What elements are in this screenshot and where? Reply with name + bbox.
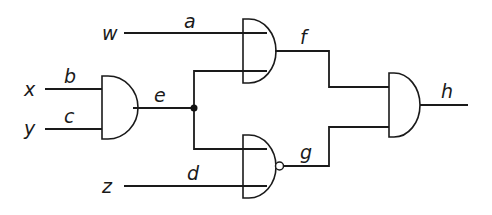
label-input-x: x: [23, 78, 36, 100]
junction-dot: [191, 105, 198, 112]
label-wire-a: a: [184, 10, 196, 32]
label-input-y: y: [23, 117, 36, 139]
wire-f: [275, 51, 389, 87]
label-wire-b: b: [64, 65, 76, 87]
nand-gate-body: [243, 135, 276, 198]
label-wire-g: g: [300, 141, 312, 163]
label-input-z: z: [101, 175, 113, 197]
label-wire-c: c: [64, 105, 75, 127]
label-wire-e: e: [154, 84, 166, 106]
and-gate-1: [102, 76, 138, 139]
label-input-w: w: [102, 22, 118, 44]
label-wire-d: d: [187, 162, 200, 184]
and-gate-4: [389, 73, 420, 137]
label-wire-f: f: [300, 26, 310, 48]
label-wire-h: h: [441, 80, 453, 102]
nand-gate-3: [243, 135, 284, 198]
wire-e-upper-branch: [194, 71, 267, 108]
input-wires: [45, 33, 267, 186]
and-gate-2: [243, 19, 276, 83]
wire-g: [283, 127, 389, 166]
logic-circuit-diagram: w x y z a b c d e f g h: [0, 0, 492, 215]
wire-e-lower-branch: [194, 108, 267, 149]
inverter-bubble: [276, 162, 284, 170]
